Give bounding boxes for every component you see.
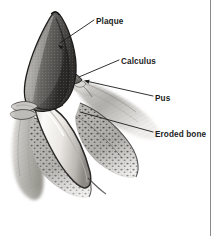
right-fade: [148, 96, 198, 206]
label-calculus: Calculus: [121, 57, 156, 66]
illustration-figure: PlaqueCalculusPusEroded bone Periodontal…: [0, 0, 216, 236]
left-fade: [0, 90, 16, 220]
periodontal-disease-diagram: PlaqueCalculusPusEroded bone: [0, 0, 216, 236]
label-eroded-bone: Eroded bone: [155, 130, 206, 139]
label-plaque: Plaque: [96, 17, 124, 26]
label-pus: Pus: [155, 94, 171, 103]
